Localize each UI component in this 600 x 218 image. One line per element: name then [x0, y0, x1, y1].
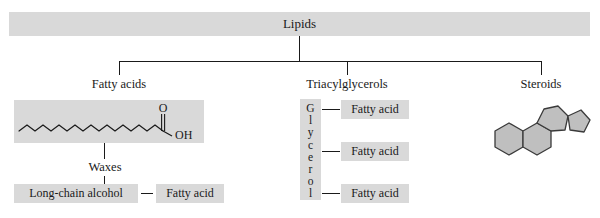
glycerol-letter: G [306, 102, 314, 114]
branch-drop-steroids [541, 61, 542, 75]
fatty-acid-structure-panel: O OH [14, 100, 204, 143]
wax-component-label: Fatty acid [166, 187, 214, 200]
glycerol-backbone-box: G l y c e r o l [300, 99, 321, 200]
triacylglycerol-chain-3: Fatty acid [341, 184, 409, 203]
branch-bar [119, 61, 542, 62]
category-label-triacylglycerols: Triacylglycerols [282, 77, 412, 92]
glycerol-letter: l [309, 187, 312, 199]
glycerol-letter: l [309, 114, 312, 126]
branch-drop-triacylglycerols [347, 61, 348, 75]
wax-component-fatty-acid: Fatty acid [156, 184, 224, 203]
waxes-stem-upper [104, 143, 105, 159]
steroid-ring-a [495, 123, 523, 155]
glycerol-letter: c [308, 139, 313, 151]
lipids-classification-diagram: Lipids Fatty acids Triacylglycerols Ster… [0, 0, 600, 218]
glycerol-letter: y [308, 126, 314, 138]
carbonyl-oxygen-label: O [159, 101, 168, 115]
glycerol-letter: o [308, 175, 314, 187]
steroid-ring-d [568, 110, 590, 132]
branch-drop-fatty-acids [119, 61, 120, 75]
steroid-nucleus-icon [489, 98, 594, 168]
subcategory-label-waxes: Waxes [64, 160, 146, 175]
waxes-stem-lower [104, 176, 105, 184]
glycerol-letter: r [309, 163, 313, 175]
root-stem-line [299, 36, 300, 61]
steroid-structure-panel [489, 98, 594, 168]
fatty-acid-skeletal-structure-icon: O OH [14, 100, 204, 143]
category-label-fatty-acids: Fatty acids [59, 77, 179, 92]
glycerol-letter: e [308, 151, 313, 163]
chain-label: Fatty acid [351, 145, 399, 158]
chain-label: Fatty acid [351, 187, 399, 200]
wax-component-long-chain-alcohol: Long-chain alcohol [14, 184, 138, 203]
root-node-label: Lipids [283, 17, 316, 31]
category-label-steroids: Steroids [491, 77, 591, 92]
ester-bond-connector-3 [322, 193, 340, 194]
triacylglycerol-chain-2: Fatty acid [341, 142, 409, 161]
wax-ester-connector [141, 193, 153, 194]
ester-bond-connector-2 [322, 151, 340, 152]
chain-label: Fatty acid [351, 103, 399, 116]
hydroxyl-label: OH [175, 128, 193, 142]
triacylglycerol-chain-1: Fatty acid [341, 100, 409, 119]
ester-bond-connector-1 [322, 109, 340, 110]
root-node-lipids: Lipids [9, 12, 590, 36]
wax-component-label: Long-chain alcohol [29, 187, 123, 200]
